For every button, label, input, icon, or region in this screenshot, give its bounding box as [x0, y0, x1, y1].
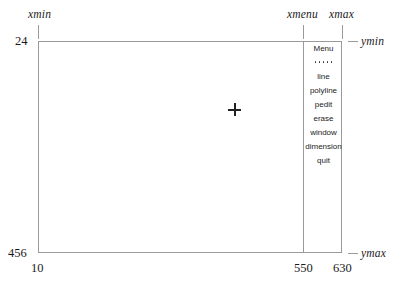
tick-leader-xmax: [342, 25, 343, 39]
coordinate-value-bottom-left-y: 456: [8, 247, 27, 260]
tick-leader-ymin: [348, 41, 358, 42]
graphics-window-frame[interactable]: [38, 41, 342, 253]
menu-item-pedit[interactable]: pedit: [304, 97, 343, 111]
crosshair-icon: [228, 103, 241, 116]
axis-label-xmax: xmax: [329, 9, 354, 21]
axis-label-ymax: ymax: [361, 248, 386, 260]
menu-item-label: line: [317, 72, 329, 81]
menu-item-label: window: [310, 128, 337, 137]
axis-label-ymin: ymin: [361, 36, 384, 48]
menu-item-dimension[interactable]: dimension: [304, 139, 343, 153]
tick-leader-ymax: [348, 253, 358, 254]
coordinate-value-bottom-menu-x: 550: [294, 262, 313, 275]
menu-separator-dots: [315, 61, 333, 63]
axis-label-xmin: xmin: [28, 9, 51, 21]
menu-item-quit[interactable]: quit: [304, 153, 343, 167]
coordinate-value-bottom-left-x: 10: [31, 262, 44, 275]
menu-item-line[interactable]: line: [304, 69, 343, 83]
crosshair-vertical-bar: [234, 103, 236, 116]
menu-item-label: dimension: [305, 142, 341, 151]
menu-panel: Menu line polyline pedit erase window: [303, 41, 342, 253]
menu-item-label: quit: [317, 156, 330, 165]
axis-label-xmenu: xmenu: [287, 9, 318, 21]
coordinate-value-bottom-right-x: 630: [333, 262, 352, 275]
menu-item-label: polyline: [310, 86, 337, 95]
menu-item-window[interactable]: window: [304, 125, 343, 139]
diagram-stage: xmin xmenu xmax ymin ymax 24 456 10 550 …: [0, 0, 409, 289]
tick-leader-xmenu: [303, 25, 304, 39]
coordinate-value-top-left-y: 24: [15, 35, 28, 48]
menu-header-label: Menu: [313, 44, 333, 53]
menu-header: Menu: [304, 41, 343, 55]
menu-item-label: erase: [313, 114, 333, 123]
menu-item-label: pedit: [315, 100, 332, 109]
tick-leader-xmin: [38, 25, 39, 39]
menu-separator: [304, 55, 343, 69]
menu-item-erase[interactable]: erase: [304, 111, 343, 125]
menu-item-polyline[interactable]: polyline: [304, 83, 343, 97]
menu-item-list: Menu line polyline pedit erase window: [304, 41, 343, 167]
